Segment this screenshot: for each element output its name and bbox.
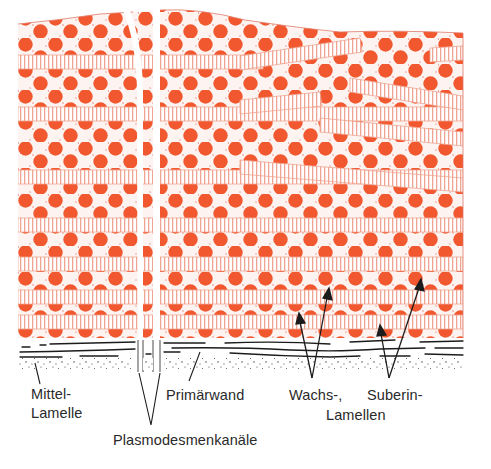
plasmodesmata-leader (139, 373, 160, 425)
label-suberin: Suberin- (367, 386, 423, 405)
label-middle-lamella-line2: Lamelle (31, 404, 82, 423)
label-primary-wall: Primärwand (166, 386, 244, 405)
suberin-layer (18, 0, 463, 340)
label-middle-lamella-line1: Mittel- (31, 385, 71, 404)
label-lamellae: Lamellen (326, 406, 386, 425)
label-wax: Wachs-, (289, 386, 342, 405)
label-plasmodesmata: Plasmodesmenkanäle (113, 431, 257, 450)
